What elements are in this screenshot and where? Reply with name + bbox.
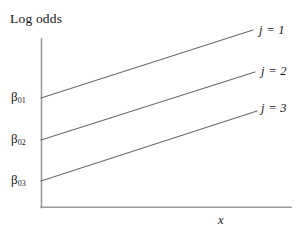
- x-axis-label: x: [218, 214, 224, 227]
- series-label-j1: j = 1: [259, 24, 285, 37]
- plot-svg: [0, 0, 303, 247]
- beta-subscript: 03: [18, 179, 26, 188]
- beta-subscript: 01: [18, 96, 26, 105]
- series-line-j1: [41, 30, 253, 98]
- series-label-j2: j = 2: [261, 65, 287, 78]
- page-title: Log odds: [10, 12, 62, 26]
- y-tick-label-beta02: β02: [11, 132, 26, 147]
- series-line-j3: [41, 111, 257, 181]
- y-tick-label-beta03: β03: [11, 173, 26, 188]
- beta-symbol: β: [11, 172, 18, 187]
- series-line-j2: [41, 72, 255, 140]
- series-label-j3: j = 3: [261, 102, 287, 115]
- beta-symbol: β: [11, 131, 18, 146]
- figure-canvas: Log odds β01 β02 β03 j = 1 j = 2 j = 3 x: [0, 0, 303, 247]
- beta-subscript: 02: [18, 138, 26, 147]
- y-tick-label-beta01: β01: [11, 90, 26, 105]
- beta-symbol: β: [11, 89, 18, 104]
